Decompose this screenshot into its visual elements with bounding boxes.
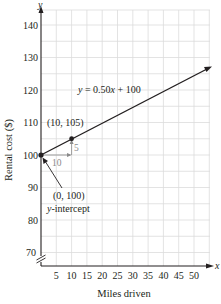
x-tick-50: 50 — [189, 270, 199, 281]
y-tick-70: 70 — [26, 247, 36, 258]
y-tick-90: 90 — [28, 182, 38, 193]
run-arrow-icon — [67, 153, 72, 157]
y-tick-110: 110 — [23, 117, 38, 128]
x-tick-labels: 5 10 15 20 25 30 35 40 45 50 — [54, 270, 199, 281]
y-tick-140: 140 — [23, 20, 38, 31]
x-axis-title: Miles driven — [97, 288, 151, 299]
x-tick-10: 10 — [67, 270, 77, 281]
y-axis-title: Rental cost ($) — [3, 119, 15, 181]
y-tick-100: 100 — [23, 150, 38, 161]
line-arrow-icon — [204, 67, 212, 73]
axis-break-icon — [36, 255, 46, 263]
point-10-105 — [69, 136, 74, 141]
y-tick-130: 130 — [23, 52, 38, 63]
x-tick-45: 45 — [174, 270, 184, 281]
point-label-0-100: (0, 100) — [53, 190, 85, 202]
x-tick-25: 25 — [113, 270, 123, 281]
x-tick-15: 15 — [82, 270, 92, 281]
intercept-arrow-icon — [43, 158, 49, 165]
grid — [41, 10, 210, 266]
y-tick-labels: 140 130 120 110 100 90 80 70 — [23, 20, 38, 259]
y-axis-symbol: y — [37, 0, 43, 10]
point-label-10-105: (10, 105) — [47, 117, 84, 129]
y-tick-120: 120 — [23, 85, 38, 96]
y-intercept-label: y-intercept — [46, 203, 90, 214]
equation-label: y = 0.50x + 100 — [77, 84, 141, 95]
y-tick-80: 80 — [28, 215, 38, 226]
x-axis-arrow-icon — [206, 264, 214, 269]
x-tick-20: 20 — [97, 270, 107, 281]
rise-label: 5 — [74, 143, 79, 153]
x-tick-5: 5 — [54, 270, 59, 281]
x-tick-35: 35 — [143, 270, 153, 281]
x-axis-symbol: x — [214, 260, 220, 271]
linear-function-chart: y x 140 130 120 110 100 90 80 70 5 10 15… — [0, 0, 221, 304]
run-label: 10 — [52, 158, 62, 168]
x-tick-30: 30 — [128, 270, 138, 281]
function-line — [41, 69, 207, 155]
x-tick-40: 40 — [158, 270, 168, 281]
point-0-100 — [38, 152, 43, 157]
